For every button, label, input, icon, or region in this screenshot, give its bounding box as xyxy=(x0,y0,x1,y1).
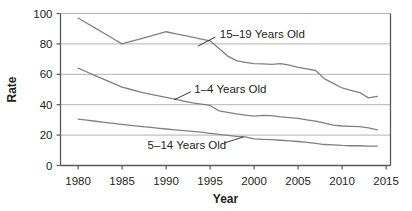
series-leader-line-2 xyxy=(224,137,243,143)
xtick-label-2000: 2000 xyxy=(241,175,267,187)
ytick-label-80: 80 xyxy=(40,38,53,50)
xtick-label-1985: 1985 xyxy=(109,175,135,187)
xtick-label-2010: 2010 xyxy=(329,175,355,187)
y-axis-title: Rate xyxy=(5,76,19,102)
ytick-label-0: 0 xyxy=(46,160,52,172)
ytick-label-100: 100 xyxy=(33,8,52,20)
ytick-label-20: 20 xyxy=(40,129,53,141)
series-line-1 xyxy=(78,68,377,130)
series-label-0: 15–19 Years Old xyxy=(220,28,305,40)
series-label-2: 5–14 Years Old xyxy=(148,139,227,151)
series-label-1: 1–4 Years Old xyxy=(194,83,266,95)
xtick-label-2005: 2005 xyxy=(285,175,311,187)
x-axis-title: Year xyxy=(213,192,239,206)
chart-canvas: 0204060801001980198519901995200020052010… xyxy=(0,0,412,211)
series-leader-line-1 xyxy=(174,92,191,100)
line-chart-figure: 0204060801001980198519901995200020052010… xyxy=(0,0,412,211)
ytick-label-60: 60 xyxy=(40,68,53,80)
xtick-label-1995: 1995 xyxy=(197,175,223,187)
xtick-label-2015: 2015 xyxy=(373,175,399,187)
xtick-label-1980: 1980 xyxy=(65,175,91,187)
ytick-label-40: 40 xyxy=(40,99,53,111)
xtick-label-1990: 1990 xyxy=(153,175,179,187)
